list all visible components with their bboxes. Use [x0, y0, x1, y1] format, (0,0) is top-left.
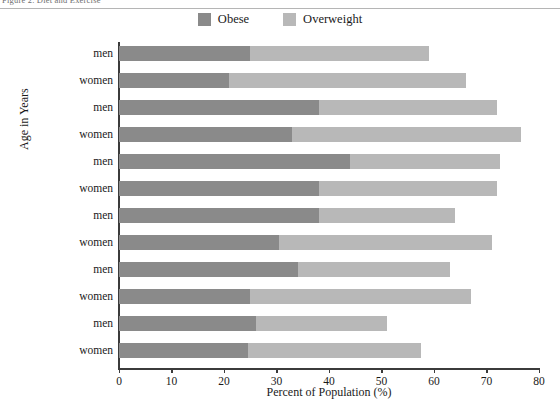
bar-segment-obese [119, 154, 350, 169]
legend-item-overweight[interactable]: Overweight [283, 13, 362, 26]
bar-segment-overweight [256, 316, 387, 331]
bar-segment-overweight [250, 46, 429, 61]
bar-row-label-men: men [0, 208, 113, 223]
legend-swatch-obese [198, 13, 211, 26]
bar-segment-obese [119, 127, 292, 142]
age-group-label: 20–34 [0, 331, 4, 343]
bar-row-label-men: men [0, 262, 113, 277]
bar-row[interactable] [119, 73, 466, 88]
bar-row[interactable] [119, 343, 421, 358]
bar-segment-overweight [319, 208, 456, 223]
bar-row-label-women: women [0, 181, 113, 196]
bar-segment-overweight [248, 343, 421, 358]
age-group-label: 55–64 [0, 169, 4, 181]
legend-swatch-overweight [283, 13, 296, 26]
age-group-label: 35–44 [0, 277, 4, 289]
bar-segment-obese [119, 73, 229, 88]
bar-row[interactable] [119, 100, 497, 115]
bar-segment-overweight [298, 262, 450, 277]
x-axis-tick [119, 368, 121, 373]
bar-row[interactable] [119, 127, 521, 142]
bar-segment-obese [119, 46, 250, 61]
bar-row-label-women: women [0, 235, 113, 250]
x-axis-tick [381, 368, 383, 373]
bar-segment-overweight [279, 235, 492, 250]
bar-row-label-men: men [0, 46, 113, 61]
x-axis-tick [486, 368, 488, 373]
bar-row[interactable] [119, 154, 500, 169]
plot-area: menwomenmenwomenmenwomenmenwomenmenwomen… [119, 42, 539, 368]
bar-segment-obese [119, 289, 250, 304]
bar-row[interactable] [119, 46, 429, 61]
bar-row[interactable] [119, 235, 492, 250]
bar-segment-obese [119, 181, 319, 196]
bar-row[interactable] [119, 181, 497, 196]
x-axis-label: Percent of Population (%) [119, 385, 539, 400]
bar-segment-overweight [319, 100, 498, 115]
x-axis-tick [224, 368, 226, 373]
x-axis-tick [276, 368, 278, 373]
bar-segment-obese [119, 262, 298, 277]
age-group-label: 65–74 [0, 115, 4, 127]
legend-label-obese: Obese [218, 13, 249, 26]
bar-row-label-men: men [0, 100, 113, 115]
bar-segment-overweight [250, 289, 471, 304]
bar-row[interactable] [119, 289, 471, 304]
age-group-label: 45–54 [0, 223, 4, 235]
age-group-label: 75+ [0, 61, 4, 73]
x-axis-tick [434, 368, 436, 373]
bar-segment-obese [119, 316, 256, 331]
bar-row[interactable] [119, 208, 455, 223]
legend-label-overweight: Overweight [303, 13, 362, 26]
bar-row-label-women: women [0, 127, 113, 142]
bar-segment-obese [119, 343, 248, 358]
bar-row-label-women: women [0, 289, 113, 304]
bar-row-label-women: women [0, 73, 113, 88]
bar-segment-obese [119, 208, 319, 223]
caption-divider-rule [0, 8, 560, 9]
bar-segment-obese [119, 100, 319, 115]
bar-segment-overweight [350, 154, 500, 169]
bar-row-label-men: men [0, 154, 113, 169]
x-axis-tick [329, 368, 331, 373]
bar-segment-overweight [292, 127, 520, 142]
legend-item-obese[interactable]: Obese [198, 13, 249, 26]
bar-segment-overweight [229, 73, 465, 88]
bar-segment-overweight [319, 181, 498, 196]
figure-caption-text: Figure 2. Diet and Exercise [2, 0, 101, 5]
bar-row-label-women: women [0, 343, 113, 358]
bar-row[interactable] [119, 262, 450, 277]
x-axis-tick [171, 368, 173, 373]
bar-segment-obese [119, 235, 279, 250]
bar-row[interactable] [119, 316, 387, 331]
x-axis-tick [539, 368, 541, 373]
bar-row-label-men: men [0, 316, 113, 331]
chart-legend: Obese Overweight [0, 13, 560, 26]
